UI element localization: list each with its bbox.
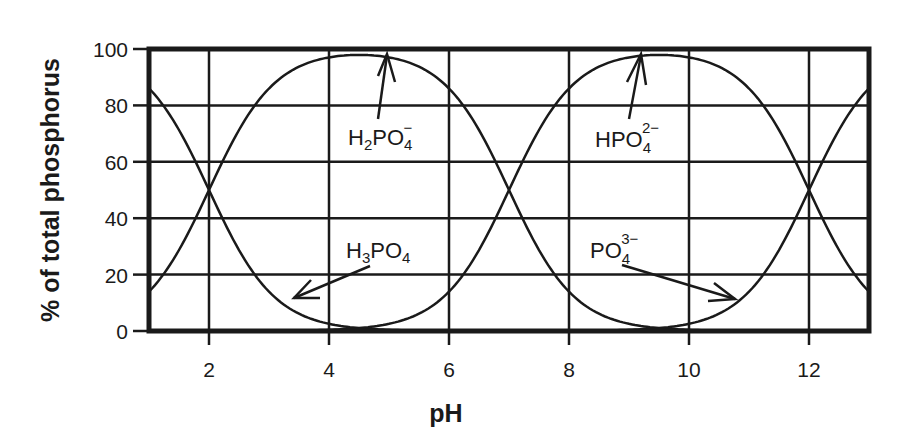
x-tick-label: 2 (203, 358, 215, 381)
y-tick-label: 80 (105, 94, 128, 117)
label-h2po4-po: PO (372, 125, 404, 150)
x-tick-label: 8 (563, 358, 575, 381)
curve-po43 (149, 88, 869, 331)
label-po4-sub: 4 (622, 250, 630, 267)
curve-h3po4 (149, 88, 869, 331)
label-h3po4-sub2: 4 (402, 249, 410, 266)
svg-text:H2PO4−: H2PO4− (348, 119, 412, 153)
x-tick-label: 10 (677, 358, 700, 381)
y-tick-label: 100 (93, 38, 128, 61)
x-axis-title: pH (429, 399, 462, 427)
label-h3po4-h: H (346, 238, 362, 263)
label-hpo4-hpo: HPO (595, 127, 643, 152)
svg-text:PO43−: PO43− (590, 230, 638, 267)
arrow-po4 (622, 265, 735, 299)
label-hpo4-sub: 4 (643, 139, 651, 156)
label-po4-charge: 3− (621, 230, 638, 247)
annotation-h2po4: H2PO4− (348, 54, 412, 153)
curve-h2po4 (149, 55, 869, 331)
label-hpo4-charge: 2− (642, 119, 659, 136)
arrow-h3po4 (294, 266, 370, 298)
y-tick-label: 40 (105, 207, 128, 230)
x-tick-label: 12 (797, 358, 820, 381)
svg-text:H3PO4: H3PO4 (346, 238, 410, 266)
speciation-chart: 020406080100 24681012 pH % of total phos… (0, 0, 907, 445)
y-tick-label: 60 (105, 151, 128, 174)
label-h3po4-po: PO (370, 238, 402, 263)
label-h2po4-charge: − (403, 119, 412, 136)
x-tick-label: 6 (443, 358, 455, 381)
x-tick-label: 4 (323, 358, 335, 381)
species-curves (149, 55, 869, 331)
y-axis-title: % of total phosphorus (36, 58, 64, 322)
svg-text:HPO42−: HPO42− (595, 119, 659, 156)
x-axis-ticks: 24681012 (203, 331, 821, 381)
label-h2po4-h: H (348, 125, 364, 150)
label-h2po4-sub2: 4 (404, 136, 412, 153)
annotation-h3po4: H3PO4 (294, 238, 410, 298)
curve-hpo42 (149, 55, 869, 331)
annotation-po4: PO43− (590, 230, 735, 301)
label-po4-po: PO (590, 238, 622, 263)
label-h2po4-sub1: 2 (364, 136, 372, 153)
label-h3po4-sub1: 3 (362, 249, 370, 266)
y-axis-ticks: 020406080100 (93, 38, 149, 343)
y-tick-label: 20 (105, 264, 128, 287)
y-tick-label: 0 (116, 320, 128, 343)
